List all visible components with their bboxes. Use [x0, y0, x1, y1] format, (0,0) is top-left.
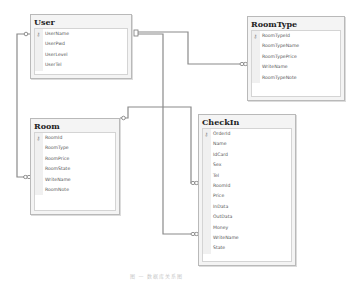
column-row[interactable]: Money — [203, 223, 291, 233]
table-checkin[interactable]: CheckIn ⚷OrderId Name IdCard Sex Tel Roo… — [198, 114, 296, 266]
key-icon: ⚷ — [37, 29, 41, 39]
column-row[interactable]: RoomNote — [35, 185, 115, 195]
column-row[interactable]: WriteName — [35, 175, 115, 185]
column-row[interactable]: UserPwd — [35, 39, 127, 49]
er-diagram-canvas: User ⚷UserName UserPwd UserLevel UserTel… — [0, 0, 356, 281]
rel-room-checkin — [120, 107, 198, 183]
column-row[interactable]: UserTel — [35, 60, 127, 70]
column-list: ⚷RoomTypeId RoomTypeName RoomTypePrice W… — [251, 30, 341, 97]
table-title: RoomType — [248, 17, 344, 29]
table-user[interactable]: User ⚷UserName UserPwd UserLevel UserTel — [30, 14, 132, 79]
column-row[interactable]: UserLevel — [35, 50, 127, 60]
column-row[interactable]: WriteName — [203, 233, 291, 243]
key-icon: ⚷ — [254, 31, 258, 41]
column-row[interactable]: InData — [203, 202, 291, 212]
column-row[interactable]: RoomPrice — [35, 154, 115, 164]
column-row[interactable]: State — [203, 243, 291, 253]
rel-user-room — [17, 34, 30, 177]
column-row[interactable]: RoomType — [35, 143, 115, 153]
column-row[interactable]: WriteName — [252, 62, 340, 72]
table-title: User — [31, 15, 131, 27]
column-row[interactable]: RoomTypeName — [252, 41, 340, 51]
column-row[interactable]: RoomTypeNote — [252, 73, 340, 83]
column-row[interactable]: ⚷OrderId — [203, 129, 291, 139]
column-list: ⚷OrderId Name IdCard Sex Tel RoomId Pric… — [202, 128, 292, 262]
figure-caption: 图 — 数据库关系图 — [130, 272, 183, 279]
column-row[interactable]: RoomId — [203, 181, 291, 191]
column-list: ⚷UserName UserPwd UserLevel UserTel — [34, 28, 128, 75]
column-row[interactable]: RoomTypePrice — [252, 52, 340, 62]
key-icon: ⚷ — [37, 133, 41, 143]
table-title: CheckIn — [199, 115, 295, 127]
column-row[interactable]: Sex — [203, 160, 291, 170]
column-row[interactable]: ⚷RoomId — [35, 133, 115, 143]
column-row[interactable]: ⚷RoomTypeId — [252, 31, 340, 41]
column-row[interactable]: OutData — [203, 212, 291, 222]
column-row[interactable]: ⚷UserName — [35, 29, 127, 39]
table-room[interactable]: Room ⚷RoomId RoomType RoomPrice RoomStat… — [30, 118, 120, 215]
column-list: ⚷RoomId RoomType RoomPrice RoomState Wri… — [34, 132, 116, 211]
key-icon: ⚷ — [205, 129, 209, 139]
column-row[interactable]: Name — [203, 139, 291, 149]
column-row[interactable]: Price — [203, 191, 291, 201]
column-row[interactable]: RoomState — [35, 164, 115, 174]
rel-user-roomtype — [136, 32, 247, 64]
column-row[interactable]: IdCard — [203, 150, 291, 160]
column-row[interactable]: Tel — [203, 171, 291, 181]
table-roomtype[interactable]: RoomType ⚷RoomTypeId RoomTypeName RoomTy… — [247, 16, 345, 101]
table-title: Room — [31, 119, 119, 131]
